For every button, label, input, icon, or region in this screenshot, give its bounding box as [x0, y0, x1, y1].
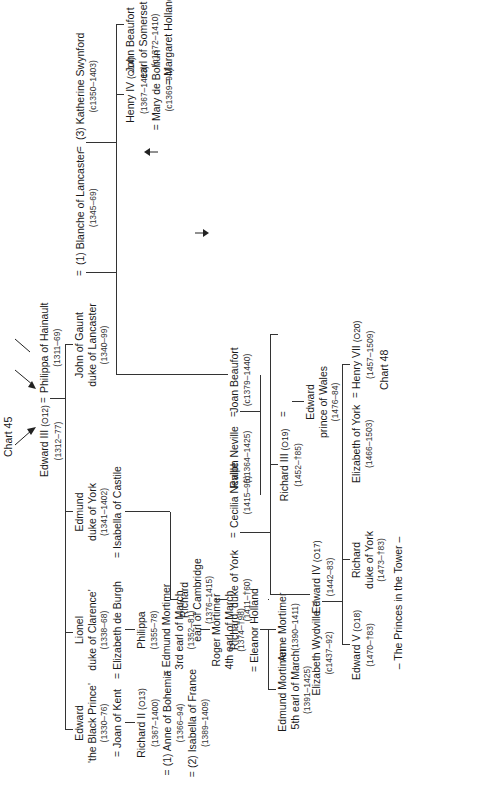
- line: [65, 344, 73, 345]
- line: [268, 629, 276, 630]
- line: [86, 272, 116, 273]
- person-richard-earl-of-cambridge: Richard earl of Cambridge (1376–1415): [178, 558, 216, 641]
- line: [268, 689, 276, 690]
- line: [125, 722, 135, 723]
- line: [268, 599, 269, 600]
- line: [240, 411, 260, 412]
- marriage-symbol: =: [278, 411, 289, 417]
- line: [86, 142, 116, 143]
- person-elizabeth-of-york: Elizabeth of York (1466–1503): [350, 405, 375, 483]
- marriage-symbol: =: [350, 392, 361, 398]
- line: [50, 398, 65, 399]
- marriage-symbol: =: [74, 270, 85, 276]
- line: [170, 512, 171, 600]
- line: [342, 364, 350, 365]
- person-edward-v: Edward V (O18) (1470–†83): [350, 610, 376, 680]
- person-joan-beaufort: Joan Beaufort (c1379–1440): [228, 347, 253, 412]
- line: [215, 599, 227, 600]
- line: [270, 334, 278, 335]
- person-katherine-swynford: (3) Katherine Swynford (c1350–1403): [74, 33, 99, 140]
- person-edmund-duke-of-york: Edmund duke of York (1341–1402) = Isabel…: [73, 466, 123, 558]
- line: [65, 632, 73, 633]
- line: [125, 629, 135, 630]
- person-elizabeth-wydville: Elizabeth Wydville (c1437–92): [310, 610, 335, 695]
- line: [270, 464, 278, 465]
- princes-in-the-tower-label: – The Princes in the Tower –: [392, 537, 405, 670]
- chart-48-label: Chart 48: [378, 350, 390, 390]
- person-black-prince: Edward 'the Black Prince' (1330–76) = Jo…: [73, 683, 123, 763]
- line: [116, 24, 124, 25]
- line: [260, 629, 268, 630]
- person-richard-duke-of-york: Richard, duke of York (1411–†60): [228, 550, 253, 650]
- line: [65, 511, 73, 512]
- person-richard-ii: Richard II (O13) (1367–1400) = (1) Anne …: [135, 669, 211, 777]
- person-anne-mortimer: Anne Mortimer (1390–1411): [276, 593, 301, 662]
- family-tree-diagram: Chart 45 Edward III (O12) (1312–77) = Ph…: [0, 0, 481, 795]
- person-blanche-of-lancaster: (1) Blanche of Lancaster (1345–69): [74, 151, 99, 265]
- person-edward-iv: Edward IV (O17) (1442–83): [310, 540, 336, 613]
- line: [125, 511, 170, 512]
- person-ralph-neville: Ralph Neville (c1364–1425): [228, 426, 253, 488]
- line: [270, 335, 271, 595]
- person-edward-prince-of-wales-1476: Edward prince of Wales (1476–84): [304, 366, 342, 438]
- person-lionel-clarence: Lionel duke of Clarence' (1338–68) = Eli…: [73, 581, 123, 679]
- line: [292, 401, 304, 402]
- line: [322, 601, 342, 602]
- marriage-symbol: =: [228, 532, 239, 538]
- person-richard-duke-of-york-1473: Richard duke of York (1473–†83): [350, 531, 388, 589]
- line: [268, 630, 269, 690]
- person-edward-iii: Edward III (O12) (1312–77): [38, 405, 64, 477]
- line: [342, 365, 343, 645]
- line: [270, 594, 310, 595]
- line: [240, 532, 270, 533]
- line: [342, 559, 350, 560]
- line: [65, 729, 73, 730]
- line: [260, 375, 261, 495]
- line: [116, 374, 228, 375]
- line: [116, 94, 124, 95]
- marriage-symbol: =: [38, 397, 49, 403]
- line: [116, 25, 117, 375]
- line: [342, 644, 350, 645]
- line: [170, 599, 178, 600]
- person-john-beaufort-1: John Beaufort earl of Somerset (c1372–14…: [124, 0, 174, 85]
- person-henry-vii: Henry VII (O20) (1457–1509): [350, 321, 376, 389]
- person-richard-iii: Richard III (O19) (1452–†85): [278, 429, 304, 502]
- spine-line: [65, 344, 66, 730]
- marriage-symbol: =: [74, 146, 85, 152]
- person-john-of-gaunt: John of Gaunt duke of Lancaster (1340–99…: [73, 303, 111, 386]
- person-philippa-of-hainault: Philippa of Hainault (1311–69): [38, 303, 63, 393]
